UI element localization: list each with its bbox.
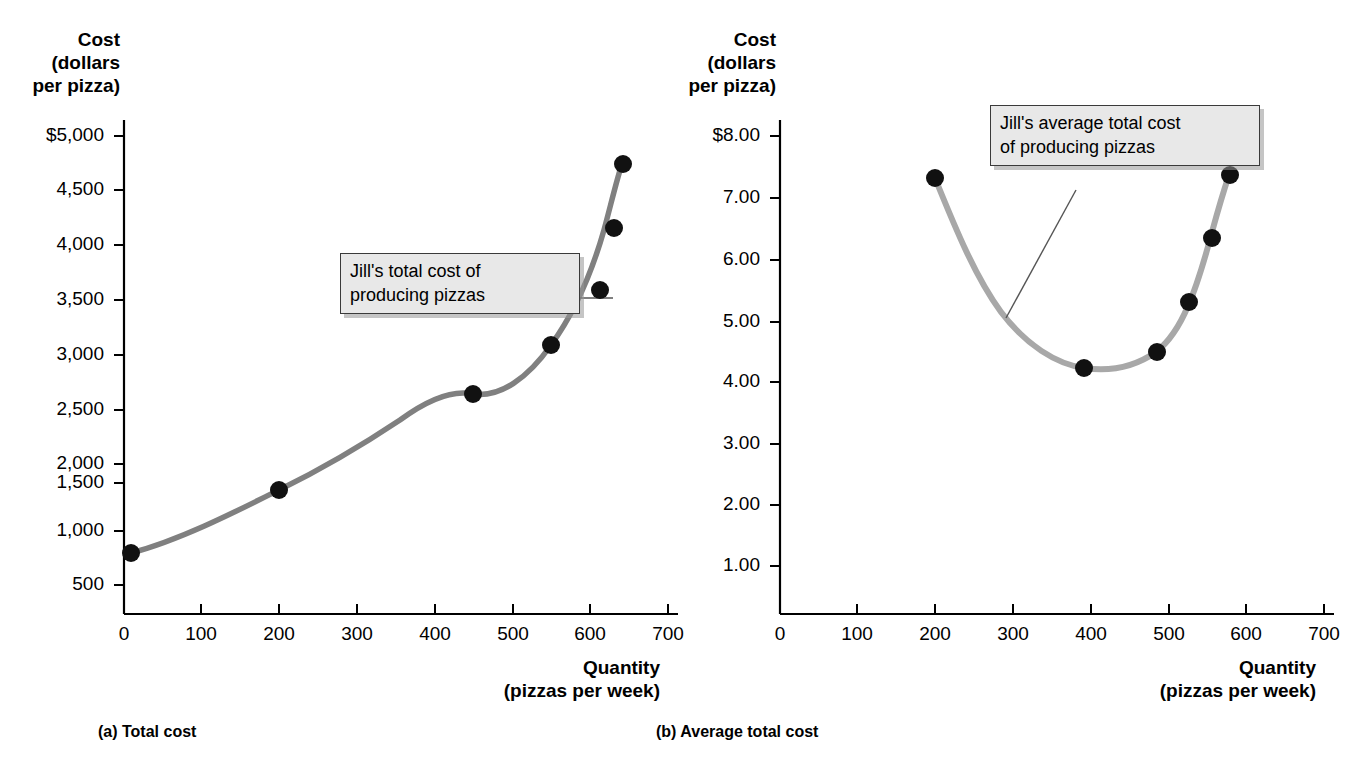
panel-b-ytick-label: 6.00 — [656, 248, 760, 270]
panel-a-x-ticks — [201, 604, 668, 614]
panel-b-caption: (b) Average total cost — [656, 723, 818, 741]
panel-b-xtick-label: 700 — [1304, 623, 1344, 645]
panel-b-xtick-label: 200 — [915, 623, 955, 645]
panel-b-x-axis-title: Quantity (pizzas per week) — [996, 656, 1316, 702]
panel-b-xtick-label: 100 — [837, 623, 877, 645]
panel-a-ytick-label: 3,500 — [0, 288, 104, 310]
panel-b-ytick-label: $8.00 — [656, 124, 760, 146]
panel-a-x-axis-title: Quantity (pizzas per week) — [340, 656, 660, 702]
panel-a-xtick-label: 0 — [104, 623, 144, 645]
panel-b-y-ticks — [770, 136, 780, 566]
panel-b-x-ticks — [857, 604, 1324, 614]
panel-average-total-cost: Cost (dollars per pizza) — [656, 0, 1341, 773]
panel-b-ytick-label: 7.00 — [656, 186, 760, 208]
panel-a-data-markers — [122, 155, 632, 562]
panel-b-xtick-label: 500 — [1149, 623, 1189, 645]
panel-a-ytick-label: 1,500 — [0, 471, 104, 493]
panel-a-y-ticks — [114, 136, 124, 585]
panel-a-ytick-label: $5,000 — [0, 124, 104, 146]
cost-curves-figure: Cost (dollars per pizza) — [0, 0, 1371, 773]
panel-b-ytick-label: 2.00 — [656, 493, 760, 515]
panel-a-xtick-label: 600 — [570, 623, 610, 645]
panel-a-ytick-label: 4,500 — [0, 178, 104, 200]
panel-a-xtick-label: 300 — [337, 623, 377, 645]
panel-b-xtick-label: 300 — [993, 623, 1033, 645]
panel-b-xtick-label: 600 — [1226, 623, 1266, 645]
panel-a-ytick-label: 3,000 — [0, 343, 104, 365]
panel-a-xtick-label: 100 — [181, 623, 221, 645]
panel-a-ytick-label: 4,000 — [0, 233, 104, 255]
panel-a-xtick-label: 200 — [259, 623, 299, 645]
panel-b-xtick-label: 0 — [760, 623, 800, 645]
panel-b-ytick-label: 4.00 — [656, 370, 760, 392]
panel-b-ytick-label: 1.00 — [656, 554, 760, 576]
panel-a-caption: (a) Total cost — [98, 723, 196, 741]
panel-b-xtick-label: 400 — [1071, 623, 1111, 645]
panel-a-callout: Jill's total cost of producing pizzas — [340, 253, 580, 314]
panel-b-callout: Jill's average total cost of producing p… — [990, 105, 1260, 166]
panel-a-ytick-label: 1,000 — [0, 519, 104, 541]
panel-b-ytick-label: 3.00 — [656, 432, 760, 454]
panel-a-ytick-label: 500 — [0, 573, 104, 595]
panel-a-total-cost-curve — [131, 164, 622, 553]
panel-b-callout-leader — [1006, 190, 1076, 318]
panel-b-ytick-label: 5.00 — [656, 310, 760, 332]
panel-a-xtick-label: 400 — [415, 623, 455, 645]
panel-total-cost: Cost (dollars per pizza) — [0, 0, 685, 773]
panel-b-average-total-cost-curve — [935, 175, 1229, 369]
panel-a-ytick-label: 2,500 — [0, 398, 104, 420]
panel-a-xtick-label: 500 — [493, 623, 533, 645]
